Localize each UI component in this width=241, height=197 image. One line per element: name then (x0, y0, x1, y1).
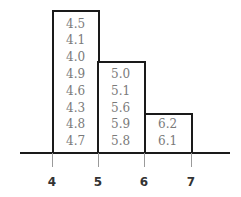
bin-4-5: 4.5 4.1 4.0 4.9 4.6 4.3 4.8 4.7 (52, 10, 100, 154)
value: 6.1 (158, 133, 177, 150)
x-tick (52, 153, 53, 167)
bin-5-6-values: 5.0 5.1 5.6 5.9 5.8 (99, 66, 144, 150)
value: 4.0 (66, 49, 85, 66)
x-tick-label: 5 (88, 175, 108, 189)
value: 4.3 (66, 100, 85, 117)
value: 5.0 (111, 66, 130, 83)
value: 5.6 (111, 100, 130, 117)
value: 4.7 (66, 133, 85, 150)
bin-6-7-values: 6.2 6.1 (146, 116, 191, 150)
value: 5.8 (111, 133, 130, 150)
x-tick (144, 153, 145, 167)
x-tick (98, 153, 99, 167)
x-tick-label: 7 (181, 175, 201, 189)
bin-4-5-values: 4.5 4.1 4.0 4.9 4.6 4.3 4.8 4.7 (54, 16, 98, 150)
bin-6-7: 6.2 6.1 (144, 113, 193, 154)
value: 4.1 (66, 32, 85, 49)
value: 4.5 (66, 16, 85, 33)
x-tick (191, 153, 192, 167)
value: 4.8 (66, 116, 85, 133)
value: 5.1 (111, 83, 130, 100)
value: 4.6 (66, 83, 85, 100)
x-tick-label: 6 (134, 175, 154, 189)
value: 4.9 (66, 66, 85, 83)
bin-5-6: 5.0 5.1 5.6 5.9 5.8 (97, 61, 146, 154)
x-tick-label: 4 (42, 175, 62, 189)
value: 6.2 (158, 116, 177, 133)
value: 5.9 (111, 116, 130, 133)
